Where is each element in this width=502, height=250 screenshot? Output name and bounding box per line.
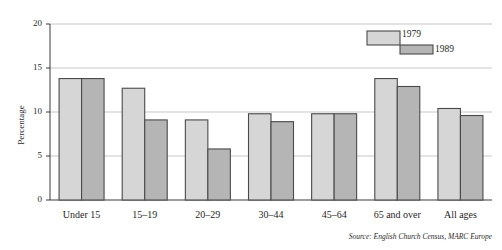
legend-swatch-1989 (400, 45, 433, 54)
bar-1979-30–44 (249, 114, 272, 200)
bar-1989-All-ages (460, 116, 483, 200)
bar-1989-15–19 (145, 120, 168, 200)
y-tick-label: 20 (33, 18, 43, 28)
bar-1989-Under-15 (82, 79, 105, 200)
source-note: Source: English Church Census, MARC Euro… (349, 232, 493, 241)
bar-1979-15–19 (122, 88, 144, 200)
legend-label-1989: 1989 (435, 44, 454, 54)
y-axis-title: Percentage (16, 105, 26, 144)
bar-1979-45–64 (312, 114, 335, 200)
y-tick-label: 0 (38, 194, 43, 204)
x-category-label: 30–44 (259, 209, 284, 220)
bar-1989-20–29 (208, 149, 231, 200)
x-category-label: 20–29 (195, 209, 220, 220)
x-category-label: All ages (444, 209, 477, 220)
legend-label-1979: 1979 (402, 29, 421, 39)
bar-1989-30–44 (271, 122, 294, 200)
x-category-label: Under 15 (63, 209, 101, 220)
bar-1979-All-ages (438, 108, 461, 200)
bar-1989-65-and-over (397, 86, 420, 200)
y-tick-label: 5 (38, 150, 43, 160)
y-tick-label: 10 (33, 106, 43, 116)
chart-svg: 05101520 Percentage Under 1515–1920–2930… (0, 0, 502, 250)
bar-1979-20–29 (185, 120, 208, 200)
x-category-label: 15–19 (132, 209, 157, 220)
x-category-label: 65 and over (374, 209, 422, 220)
x-category-label: 45–64 (322, 209, 347, 220)
bar-1979-65-and-over (375, 79, 398, 200)
bar-chart: 05101520 Percentage Under 1515–1920–2930… (0, 0, 502, 250)
bar-1989-45–64 (334, 114, 357, 200)
y-tick-label: 15 (33, 62, 43, 72)
legend-swatch-1979 (367, 31, 400, 45)
bar-1979-Under-15 (59, 79, 82, 200)
